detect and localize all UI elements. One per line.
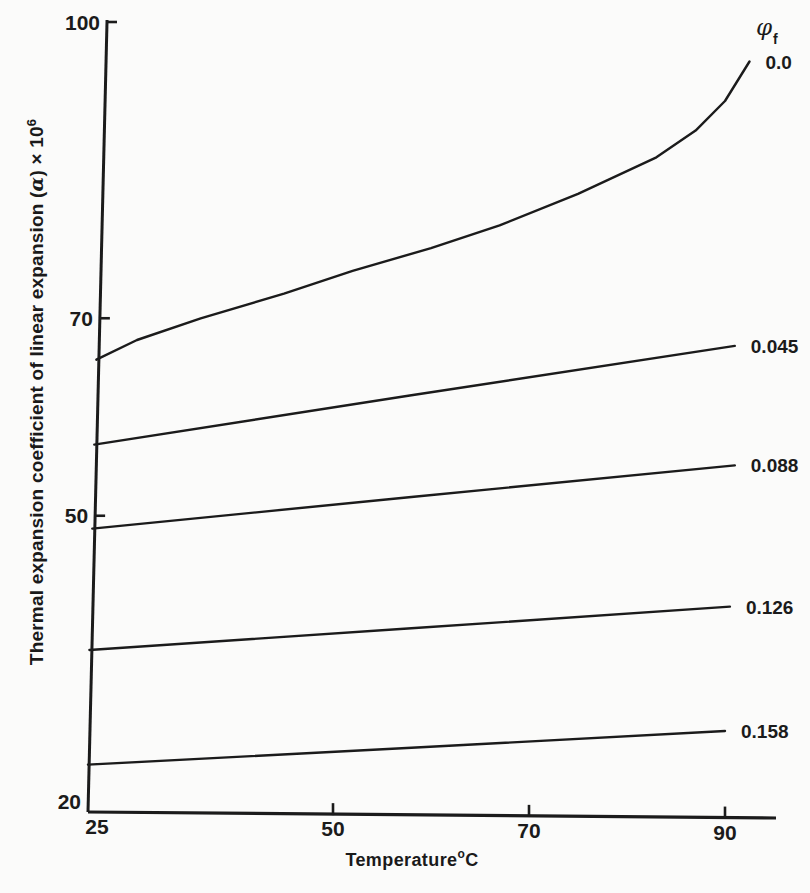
series-label-phi-0.045: 0.045 [751,336,799,357]
x-axis-unit: C [465,850,478,870]
series-label-phi-0.0: 0.0 [766,52,792,73]
x-tick-label-50: 50 [321,817,344,840]
series-label-phi-0.088: 0.088 [751,455,799,476]
x-axis-line [88,812,776,818]
series-line-phi-0.158 [88,731,725,765]
series-line-phi-0.126 [89,607,730,650]
series-line-phi-0.045 [94,346,735,445]
y-tick-label-70: 70 [70,307,93,330]
y-axis-title: Thermal expansion coefficient of linear … [24,119,48,665]
x-tick-label-25: 25 [85,815,109,838]
series-label-phi-0.126: 0.126 [746,597,794,618]
x-axis-title: TemperatureoC [345,848,478,871]
legend-title-phi-f: φf [756,14,777,43]
y-tick-label-20: 20 [58,790,81,813]
line-chart-canvas: 205070100255070900.00.0450.0880.1260.158 [0,0,810,893]
y-tick-label-50: 50 [65,504,88,527]
y-axis-title-tail: ) × 10 [26,126,47,176]
y-tick-label-100: 100 [65,11,100,34]
y-axis-title-text: Thermal expansion coefficient of linear … [26,191,47,665]
x-axis-title-text: Temperature [345,850,457,870]
x-tick-label-70: 70 [517,819,540,842]
phi-symbol: φ [756,14,772,40]
phi-subscript: f [773,31,778,47]
x-tick-label-90: 90 [713,821,736,844]
series-line-phi-0.088 [92,465,735,528]
y-axis-line [88,20,107,812]
series-label-phi-0.158: 0.158 [741,721,789,742]
degree-symbol: o [457,847,465,861]
alpha-symbol: α [25,177,47,192]
series-line-phi-0.0 [96,62,749,360]
thermal-expansion-chart: 205070100255070900.00.0450.0880.1260.158… [0,0,810,893]
y-axis-exponent: 6 [24,119,39,126]
